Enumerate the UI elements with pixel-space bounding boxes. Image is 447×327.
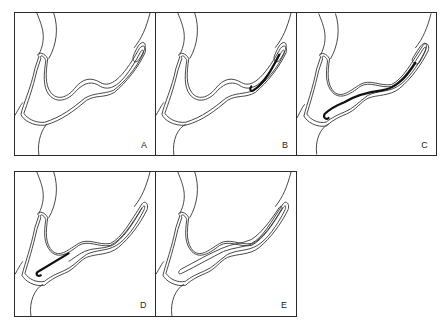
vessel-diagram-a: A — [15, 13, 155, 155]
vessel-diagram-d: D — [15, 172, 155, 316]
guidewire — [37, 253, 69, 275]
panel-e: E — [155, 171, 297, 317]
panel-label: E — [281, 300, 287, 310]
vessel-diagram-c: C — [297, 13, 436, 155]
panel-a: A — [14, 12, 156, 156]
panel-label: A — [141, 140, 147, 150]
panel-c: C — [296, 12, 437, 156]
panel-b: B — [155, 12, 297, 156]
panel-label: D — [140, 300, 147, 310]
vessel-diagram-e: E — [156, 172, 296, 316]
panel-d: D — [14, 171, 156, 317]
panel-label: C — [421, 140, 428, 150]
panel-label: B — [282, 140, 288, 150]
vessel-diagram-b: B — [156, 13, 296, 155]
guidewire — [324, 63, 415, 119]
